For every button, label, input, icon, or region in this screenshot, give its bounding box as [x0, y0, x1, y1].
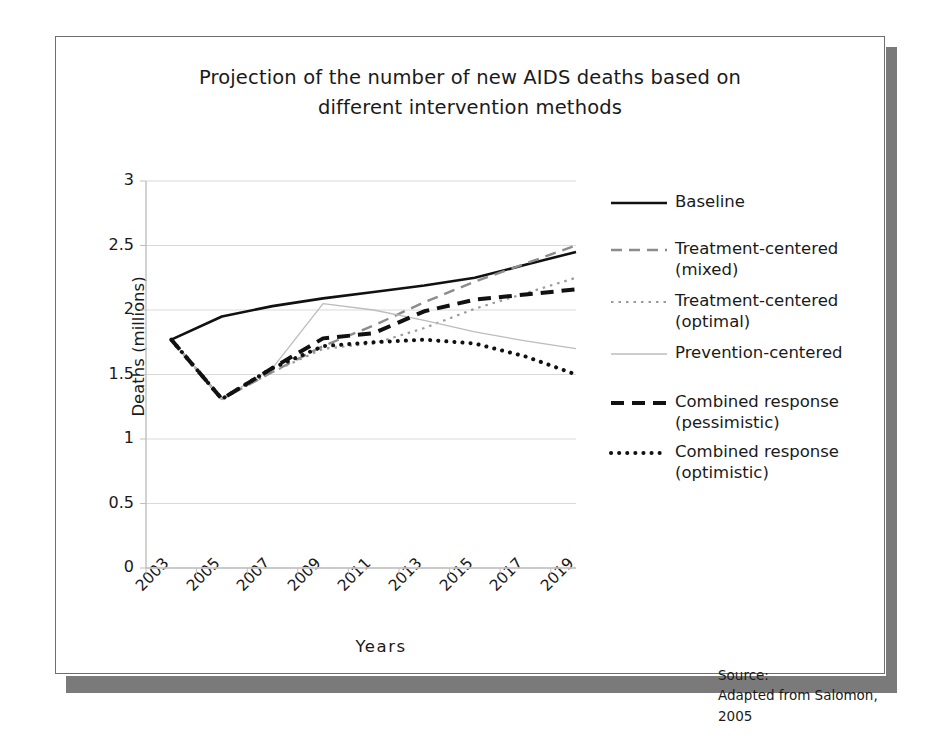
x-axis-ticks: [146, 568, 551, 575]
series-line-5: [171, 340, 576, 399]
legend-line-swatch: [609, 442, 669, 462]
legend-label-line-2: (mixed): [675, 260, 838, 281]
legend-item[interactable]: Combined response(optimistic): [609, 442, 884, 484]
legend-label: Combined response(pessimistic): [675, 392, 839, 434]
figure-drop-shadow-right: [886, 47, 897, 693]
legend-item[interactable]: Baseline: [609, 192, 884, 213]
legend-line-swatch: [609, 291, 669, 311]
chart-legend: BaselineTreatment-centered(mixed)Treatme…: [609, 192, 884, 492]
legend-label: Treatment-centered(optimal): [675, 291, 838, 333]
series-line-2: [171, 278, 576, 399]
legend-item[interactable]: Treatment-centered(optimal): [609, 291, 884, 333]
source-text: Adapted from Salomon, 2005: [718, 685, 884, 726]
series-line-3: [171, 304, 576, 399]
figure-frame: Projection of the number of new AIDS dea…: [55, 36, 885, 674]
legend-item[interactable]: Combined response(pessimistic): [609, 392, 884, 434]
legend-label: Baseline: [675, 192, 745, 213]
legend-label-line-1: Treatment-centered: [675, 239, 838, 260]
legend-line-swatch: [609, 192, 669, 212]
legend-line-swatch: [609, 239, 669, 259]
legend-label-line-1: Combined response: [675, 392, 839, 413]
legend-item[interactable]: Treatment-centered(mixed): [609, 239, 884, 281]
legend-label: Prevention-centered: [675, 343, 843, 364]
source-label: Source:: [718, 665, 884, 685]
legend-label-line-2: (optimal): [675, 312, 838, 333]
legend-label: Treatment-centered(mixed): [675, 239, 838, 281]
legend-item[interactable]: Prevention-centered: [609, 343, 884, 364]
legend-label-line-2: (optimistic): [675, 463, 839, 484]
legend-label-line-1: Treatment-centered: [675, 291, 838, 312]
legend-label: Combined response(optimistic): [675, 442, 839, 484]
gridlines: [140, 181, 576, 568]
legend-line-swatch: [609, 392, 669, 412]
data-series-group: [171, 246, 576, 400]
source-note: Source: Adapted from Salomon, 2005: [718, 665, 884, 726]
legend-label-line-2: (pessimistic): [675, 413, 839, 434]
legend-line-swatch: [609, 343, 669, 363]
legend-label-line-1: Combined response: [675, 442, 839, 463]
